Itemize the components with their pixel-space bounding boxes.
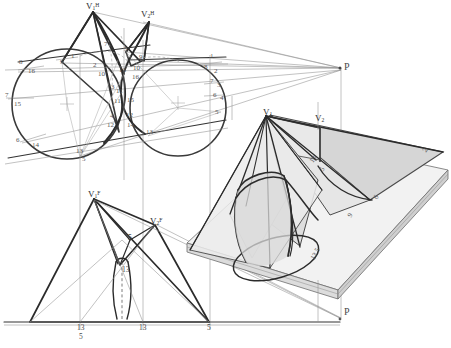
label-top-6b: 6 <box>213 92 217 99</box>
label-cusp-5: 5 <box>124 46 128 53</box>
label-v1h: V1H <box>86 2 99 12</box>
label-cusp-12b: 12 <box>126 112 133 119</box>
label-top-1: 1 <box>71 53 75 60</box>
label-front-13: 13 <box>122 266 130 274</box>
label-gl-13a: 13 <box>77 324 85 332</box>
label-p-top: P <box>344 62 350 72</box>
label-top-8b: 8 <box>204 64 208 71</box>
label-top-3b: 3 <box>217 82 221 89</box>
point-p-top-marker <box>339 67 342 70</box>
cyl-left-edge <box>113 262 117 319</box>
label-top-15: 15 <box>14 101 21 108</box>
label-top-13a: 13 <box>76 148 83 155</box>
label-v2h: V2H <box>141 10 154 20</box>
label-cusp-12: 12 <box>107 122 114 129</box>
label-top-5a: 5 <box>82 156 86 163</box>
label-cusp-9b: 9 <box>139 54 143 61</box>
label-gl-5b: 5 <box>207 324 211 332</box>
label-top-2b: 2 <box>214 68 218 75</box>
front-triangle-1 <box>30 199 209 322</box>
label-cusp-11: 11 <box>116 88 123 95</box>
label-v2f: V2F <box>150 217 162 227</box>
label-cusp-11b: 11 <box>114 98 121 105</box>
pictorial-group <box>187 96 448 322</box>
label-top-6: 6 <box>16 137 20 144</box>
label-top-5b: 5 <box>215 109 219 116</box>
label-v2-pic: V2 <box>315 114 324 124</box>
label-gl-5a: 5 <box>79 333 83 341</box>
technical-drawing-canvas: .ink{stroke:#2b2b2b;fill:none;stroke-lin… <box>0 0 451 348</box>
label-v1f: V1F <box>88 190 100 200</box>
label-top-4b: 4 <box>220 95 224 102</box>
label-top-7c: 7 <box>210 78 214 85</box>
label-top-14: 14 <box>32 142 39 149</box>
label-cusp-4: 4 <box>110 113 114 120</box>
label-gl-13b: 13 <box>139 324 147 332</box>
label-top-13c: 13 <box>146 129 153 136</box>
label-cusp-13b: 13 <box>119 67 126 74</box>
label-p-pictorial: P <box>344 307 350 317</box>
label-top-9: 9 <box>60 59 64 66</box>
label-cusp-10b: 10 <box>133 65 140 72</box>
label-cusp-16b: 16 <box>132 74 139 81</box>
label-cusp-7b: 7 <box>104 41 108 48</box>
label-cusp-2: 2 <box>93 62 97 69</box>
label-top-1b: 1 <box>210 53 214 60</box>
drawing-sheet: .ink{stroke:#2b2b2b;fill:none;stroke-lin… <box>0 0 451 348</box>
cyl-body-shade <box>235 173 292 266</box>
label-top-7: 7 <box>5 92 9 99</box>
label-cusp-14b: 14 <box>127 122 134 129</box>
label-v1-pic: V1 <box>263 108 272 118</box>
label-cusp-15b: 15 <box>127 97 134 104</box>
label-top-16: 16 <box>28 68 35 75</box>
label-cusp-3: 3 <box>111 84 115 91</box>
label-cusp-10: 10 <box>98 71 105 78</box>
label-top-8: 8 <box>19 59 23 66</box>
label-front-5: 5 <box>128 234 132 242</box>
